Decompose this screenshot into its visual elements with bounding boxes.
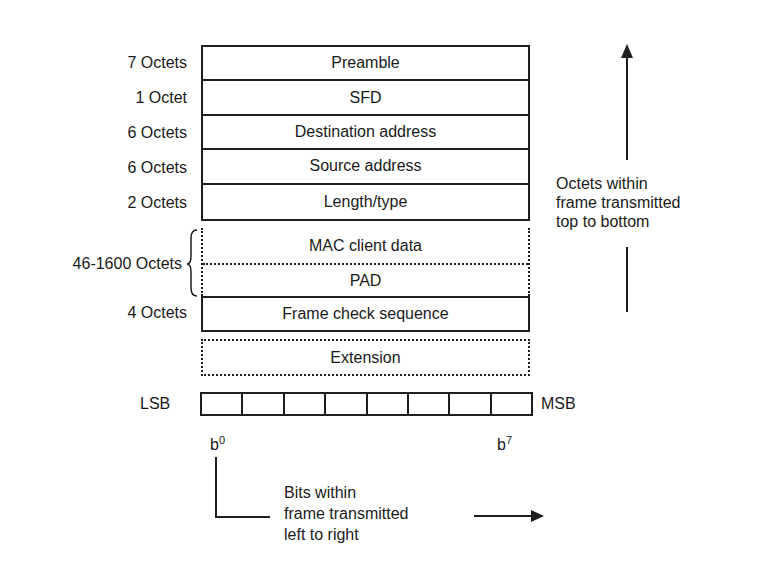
- octet-order-note: Octets within frame transmitted top to b…: [556, 174, 680, 231]
- bit-note-line-1: Bits within: [284, 482, 408, 503]
- bit-note-line-3: left to right: [284, 524, 408, 545]
- octet-note-line-1: Octets within: [556, 174, 680, 193]
- bit-note-line-2: frame transmitted: [284, 503, 408, 524]
- bit-order-note: Bits within frame transmitted left to ri…: [284, 482, 408, 545]
- octet-note-line-2: frame transmitted: [556, 193, 680, 212]
- octet-note-line-3: top to bottom: [556, 212, 680, 231]
